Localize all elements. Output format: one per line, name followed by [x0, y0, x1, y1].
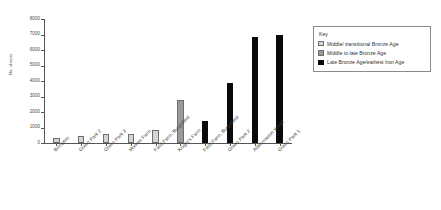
bar	[177, 100, 184, 143]
x-tick-mark	[131, 143, 132, 146]
y-tick-label: 8000	[12, 17, 40, 22]
bar	[78, 136, 85, 143]
x-tick-mark	[280, 143, 281, 146]
legend-title: Key	[318, 31, 426, 37]
y-axis-tick-labels: 010002000300040005000600070008000	[12, 0, 40, 210]
y-tick-label: 0	[12, 141, 40, 146]
legend-item: Late Bronze Age/earliest Iron Age	[318, 59, 426, 65]
plot-area: No. sherds 01000200030004000500060007000…	[0, 0, 300, 210]
y-tick-label: 6000	[12, 48, 40, 53]
y-tick-label: 3000	[12, 94, 40, 99]
y-tick-mark	[41, 66, 44, 67]
y-tick-mark	[41, 50, 44, 51]
bar-series	[44, 19, 292, 143]
bar	[152, 130, 159, 143]
x-tick-mark	[156, 143, 157, 146]
bar	[227, 83, 234, 143]
bar-chart: No. sherds 01000200030004000500060007000…	[0, 0, 441, 210]
x-tick-mark	[180, 143, 181, 146]
legend-label: Late Bronze Age/earliest Iron Age	[327, 59, 404, 65]
x-tick-mark	[230, 143, 231, 146]
y-tick-mark	[41, 143, 44, 144]
x-tick-mark	[255, 143, 256, 146]
bar	[276, 35, 283, 144]
y-tick-label: 5000	[12, 63, 40, 68]
y-tick-mark	[41, 81, 44, 82]
legend-item: Middle to late Bronze Age	[318, 50, 426, 56]
x-tick-mark	[56, 143, 57, 146]
legend-swatch	[318, 60, 324, 66]
bar	[252, 37, 259, 143]
y-tick-label: 4000	[12, 79, 40, 84]
legend-item: Middle/ transitional Bronze Age	[318, 41, 426, 47]
y-tick-mark	[41, 19, 44, 20]
y-tick-mark	[41, 112, 44, 113]
legend-swatch	[318, 41, 324, 47]
y-tick-label: 7000	[12, 32, 40, 37]
y-tick-mark	[41, 128, 44, 129]
y-tick-label: 1000	[12, 125, 40, 130]
x-tick-mark	[205, 143, 206, 146]
bar	[128, 134, 135, 143]
legend-swatch	[318, 50, 324, 56]
bar	[103, 134, 110, 143]
bar	[202, 121, 209, 143]
legend: Key Middle/ transitional Bronze AgeMiddl…	[313, 26, 431, 72]
legend-label: Middle to late Bronze Age	[327, 50, 386, 56]
x-tick-mark	[81, 143, 82, 146]
legend-label: Middle/ transitional Bronze Age	[327, 41, 399, 47]
y-tick-mark	[41, 35, 44, 36]
y-tick-mark	[41, 97, 44, 98]
x-tick-mark	[106, 143, 107, 146]
y-tick-label: 2000	[12, 110, 40, 115]
legend-items: Middle/ transitional Bronze AgeMiddle to…	[318, 41, 426, 66]
